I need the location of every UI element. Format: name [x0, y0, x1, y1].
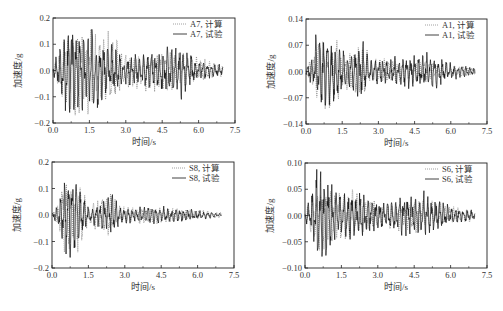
chart-A1: 0.01.53.04.56.07.50.140.070.00−0.07−0.14…	[265, 14, 492, 148]
y-tick-label: 0.00	[287, 211, 302, 221]
x-axis-title: 时间/s	[132, 136, 157, 147]
y-tick-label: −0.07	[283, 93, 303, 103]
x-tick-label: 6.0	[192, 270, 203, 280]
x-tick-label: 7.5	[482, 126, 493, 136]
legend-label: S8, 计算	[189, 163, 220, 173]
x-tick-label: 6.0	[193, 125, 204, 135]
x-tick-label: 1.5	[336, 270, 347, 280]
y-tick-label: 0.07	[288, 40, 303, 50]
x-axis-title: 时间/s	[384, 137, 409, 148]
x-tick-label: 7.5	[482, 270, 493, 280]
y-tick-label: −0.1	[35, 92, 50, 102]
y-tick-label: 0.0	[39, 66, 50, 76]
y-axis-title: 加速度/g	[11, 198, 22, 233]
x-tick-label: 4.5	[156, 270, 167, 280]
chart-S6: 0.01.53.04.56.07.50.100.050.00−0.05−0.10…	[264, 158, 492, 292]
x-tick-label: 3.0	[373, 126, 384, 136]
legend-label: A7, 试验	[190, 29, 223, 39]
x-tick-label: 1.5	[337, 126, 348, 136]
legend-label: A7, 计算	[190, 19, 223, 29]
y-tick-label: 0.00	[288, 67, 303, 77]
y-tick-label: −0.2	[35, 118, 50, 128]
legend: A1, 计算A1, 试验	[425, 20, 475, 40]
legend: S8, 计算S8, 试验	[172, 163, 220, 183]
legend: A7, 计算A7, 试验	[173, 19, 223, 39]
y-tick-label: 0.10	[287, 158, 302, 168]
y-axis-title: 加速度/g	[265, 54, 276, 89]
y-tick-label: 0.14	[288, 14, 304, 24]
x-tick-label: 1.5	[84, 125, 95, 135]
y-tick-label: −0.1	[34, 237, 49, 247]
y-axis-title: 加速度/g	[264, 198, 275, 233]
legend: S6, 计算S6, 试验	[425, 164, 473, 184]
x-tick-label: 6.0	[445, 126, 456, 136]
x-tick-label: 3.0	[372, 270, 383, 280]
y-tick-label: 0.05	[287, 184, 302, 194]
legend-label: S8, 试验	[189, 173, 220, 183]
y-tick-label: −0.14	[283, 119, 303, 129]
y-axis-title: 加速度/g	[12, 53, 23, 88]
y-tick-label: −0.10	[282, 263, 302, 273]
legend-label: A1, 计算	[442, 20, 475, 30]
y-tick-label: 0.1	[39, 39, 50, 49]
legend-label: S6, 试验	[442, 174, 473, 184]
chart-S8: 0.01.53.04.56.07.50.20.10.0−0.1−0.2时间/s加…	[11, 157, 239, 292]
y-tick-label: 0.1	[38, 184, 49, 194]
y-tick-label: 0.2	[38, 157, 49, 167]
legend-label: A1, 试验	[442, 30, 475, 40]
chart-canvas: 0.01.53.04.56.07.50.20.10.0−0.1−0.2时间/s加…	[0, 0, 503, 311]
x-tick-label: 4.5	[409, 270, 420, 280]
y-tick-label: 0.2	[39, 13, 50, 23]
x-tick-label: 6.0	[445, 270, 456, 280]
x-axis-title: 时间/s	[384, 281, 409, 292]
x-tick-label: 4.5	[157, 125, 168, 135]
y-tick-label: −0.2	[34, 263, 49, 273]
x-tick-label: 3.0	[120, 125, 131, 135]
x-tick-label: 1.5	[83, 270, 94, 280]
y-tick-label: −0.05	[282, 237, 302, 247]
x-axis-title: 时间/s	[131, 281, 156, 292]
x-tick-label: 4.5	[409, 126, 420, 136]
legend-label: S6, 计算	[442, 164, 473, 174]
x-tick-label: 7.5	[229, 270, 240, 280]
x-tick-label: 7.5	[230, 125, 241, 135]
chart-A7: 0.01.53.04.56.07.50.20.10.0−0.1−0.2时间/s加…	[12, 13, 240, 147]
y-tick-label: 0.0	[38, 210, 49, 220]
x-tick-label: 3.0	[119, 270, 130, 280]
